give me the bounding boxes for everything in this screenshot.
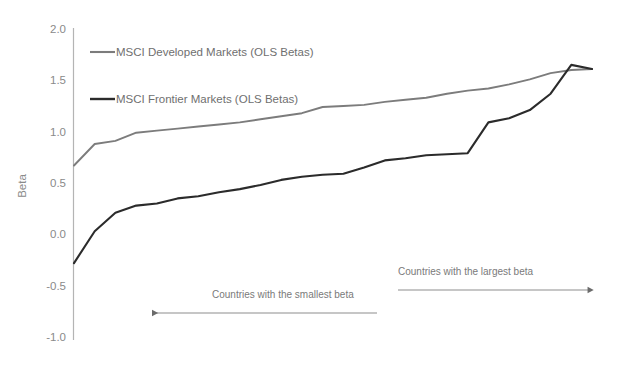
y-axis-title: Beta <box>16 174 28 198</box>
beta-line-chart: 2.01.51.00.50.0-0.5-1.0 Beta MSCI Develo… <box>0 0 617 365</box>
y-tick-label: 0.5 <box>50 177 66 189</box>
y-tick-label: 1.0 <box>50 126 66 138</box>
legend-label: MSCI Developed Markets (OLS Betas) <box>116 46 314 58</box>
y-axis-tick-labels: 2.01.51.00.50.0-0.5-1.0 <box>46 23 66 343</box>
y-tick-label: 2.0 <box>50 23 66 35</box>
y-tick-label: -1.0 <box>46 331 66 343</box>
annotation-largest-beta-label: Countries with the largest beta <box>398 266 534 277</box>
y-tick-label: 0.0 <box>50 228 66 240</box>
chart-annotations: Countries with the smallest beta Countri… <box>152 266 588 313</box>
y-tick-label: 1.5 <box>50 74 66 86</box>
chart-container: 2.01.51.00.50.0-0.5-1.0 Beta MSCI Develo… <box>0 0 617 365</box>
y-tick-label: -0.5 <box>46 280 66 292</box>
annotation-smallest-beta-label: Countries with the smallest beta <box>212 289 354 300</box>
legend-label: MSCI Frontier Markets (OLS Betas) <box>116 93 298 105</box>
chart-legend: MSCI Developed Markets (OLS Betas)MSCI F… <box>90 46 314 105</box>
